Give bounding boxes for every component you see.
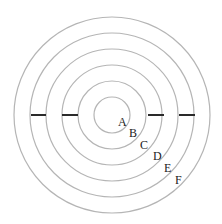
concentric-circles-diagram: ABCDEF xyxy=(0,0,222,224)
labels-group: ABCDEF xyxy=(118,115,182,187)
label-a: A xyxy=(118,115,127,129)
label-f: F xyxy=(175,173,182,187)
label-b: B xyxy=(129,126,137,140)
label-d: D xyxy=(153,149,162,163)
label-e: E xyxy=(164,161,171,175)
label-c: C xyxy=(140,138,148,152)
